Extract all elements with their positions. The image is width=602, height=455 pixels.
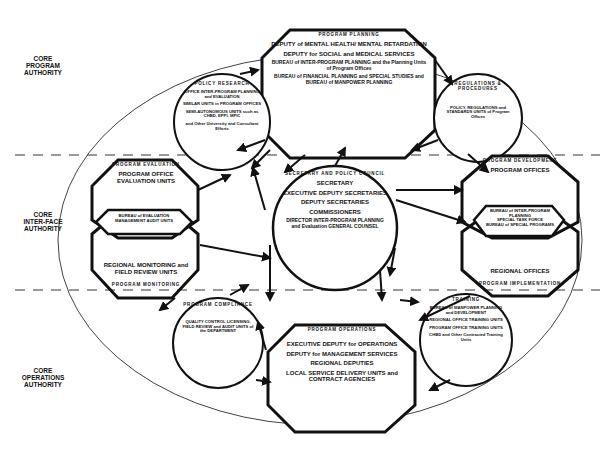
- zone-label-operations-authority: CORE OPERATIONS AUTHORITY: [3, 367, 83, 388]
- regulations-header: REGULATIONS & PROCEDURES: [442, 82, 514, 92]
- training-item: CHBD and Other Contracted Training Units: [428, 333, 504, 342]
- regulations-item: POLICY, REGULATIONS and STANDARDS UNITS …: [442, 106, 514, 120]
- program-compliance-header: PROGRAM COMPLIANCE: [180, 303, 256, 308]
- node-program-planning[interactable]: PROGRAM PLANNING DEPUTY of MENTAL HEALTH…: [270, 33, 428, 88]
- policy-research-item: SIMILAR UNITS in PROGRAM OFFICES: [182, 102, 262, 107]
- program-implementation-header: PROGRAM IMPLEMENTATION: [470, 282, 570, 287]
- program-planning-header: PROGRAM PLANNING: [270, 33, 428, 38]
- zone-label-program-authority: CORE PROGRAM AUTHORITY: [3, 55, 83, 76]
- policy-research-item: OFFICE INTER-PROGRAM PLANNING and EVALUA…: [182, 90, 262, 99]
- node-program-development[interactable]: PROGRAM DEVELOPMENT PROGRAM OFFICES: [470, 159, 570, 177]
- node-program-monitoring[interactable]: REGIONAL MONITORING and FIELD REVIEW UNI…: [100, 262, 192, 291]
- zone-label-interface-authority: CORE INTER-FACE AUTHORITY: [3, 211, 83, 232]
- program-evaluation-header: PROGRAM EVALUATION: [100, 163, 192, 168]
- secretary-item: DIRECTOR INTER-PROGRAM PLANNING and Eval…: [282, 218, 388, 229]
- node-program-implementation[interactable]: REGIONAL OFFICES PROGRAM IMPLEMENTATION: [470, 268, 570, 290]
- secretary-council-header: SECRETARY AND POLICY COUNCIL: [282, 172, 388, 177]
- bureau-interprogram-item: BUREAU of SPECIAL PROGRAMS: [484, 223, 556, 228]
- policy-research-item: SEMI-AUTONOMOUS UNITS such as CHBD, EPPI…: [182, 110, 262, 119]
- node-training[interactable]: TRAINING BUREAU of MANPOWER PLANNING and…: [428, 298, 504, 346]
- node-program-compliance[interactable]: PROGRAM COMPLIANCE QUALITY CONTROL LICEN…: [180, 303, 256, 337]
- program-operations-item: REGIONAL DEPUTIES: [278, 360, 406, 367]
- node-program-operations[interactable]: PROGRAM OPERATIONS EXECUTIVE DEPUTY for …: [278, 328, 406, 386]
- program-planning-item: BUREAU of FINANCIAL PLANNING and SPECIAL…: [270, 74, 428, 85]
- program-operations-item: LOCAL SERVICE DELIVERY UNITS and CONTRAC…: [278, 370, 406, 383]
- program-development-header: PROGRAM DEVELOPMENT: [470, 159, 570, 164]
- program-monitoring-header: PROGRAM MONITORING: [100, 283, 192, 288]
- program-planning-item: BUREAU of INTER-PROGRAM PLANNING and the…: [270, 60, 428, 71]
- training-item: REGIONAL OFFICE TRAINING UNITS: [428, 318, 504, 323]
- training-item: PROGRAM OFFICE TRAINING UNITS: [428, 326, 504, 331]
- program-implementation-item: REGIONAL OFFICES: [470, 268, 570, 275]
- node-policy-research[interactable]: POLICY RESEARCH OFFICE INTER-PROGRAM PLA…: [182, 82, 262, 134]
- node-secretary-policy-council[interactable]: SECRETARY AND POLICY COUNCIL SECRETARY E…: [282, 172, 388, 232]
- secretary-item: SECRETARY: [282, 180, 388, 187]
- secretary-item: DEPUTY SECRETARIES: [282, 199, 388, 206]
- program-evaluation-item: PROGRAM OFFICE EVALUATION UNITS: [100, 171, 192, 184]
- program-compliance-item: QUALITY CONTROL LICENSING, FIELD REVIEW …: [180, 320, 256, 334]
- training-header: TRAINING: [428, 298, 504, 303]
- node-program-evaluation[interactable]: PROGRAM EVALUATION PROGRAM OFFICE EVALUA…: [100, 163, 192, 187]
- node-bureau-interprogram[interactable]: BUREAU of INTER-PROGRAM PLANNING SPECIAL…: [484, 209, 556, 227]
- program-monitoring-item: REGIONAL MONITORING and FIELD REVIEW UNI…: [100, 262, 192, 275]
- node-bureau-evaluation[interactable]: BUREAU of EVALUATION MANAGEMENT AUDIT UN…: [108, 214, 180, 223]
- program-operations-item: DEPUTY for MANAGEMENT SERVICES: [278, 351, 406, 358]
- secretary-item: COMMISSIONERS: [282, 209, 388, 216]
- program-development-item: PROGRAM OFFICES: [470, 167, 570, 174]
- program-planning-item: DEPUTY of MENTAL HEALTH/ MENTAL RETARDAT…: [270, 41, 428, 48]
- training-item: BUREAU of MANPOWER PLANNING and DEVELOPM…: [428, 306, 504, 315]
- node-regulations-procedures[interactable]: REGULATIONS & PROCEDURES POLICY, REGULAT…: [442, 82, 514, 123]
- program-planning-item: DEPUTY for SOCIAL and MEDICAL SERVICES: [270, 51, 428, 58]
- program-operations-item: EXECUTIVE DEPUTY for OPERATIONS: [278, 341, 406, 348]
- program-operations-header: PROGRAM OPERATIONS: [278, 328, 406, 333]
- policy-research-header: POLICY RESEARCH: [182, 82, 262, 87]
- secretary-item: EXECUTIVE DEPUTY SECRETARIES: [282, 190, 388, 197]
- policy-research-item: and Other University and Consultant Effo…: [182, 122, 262, 131]
